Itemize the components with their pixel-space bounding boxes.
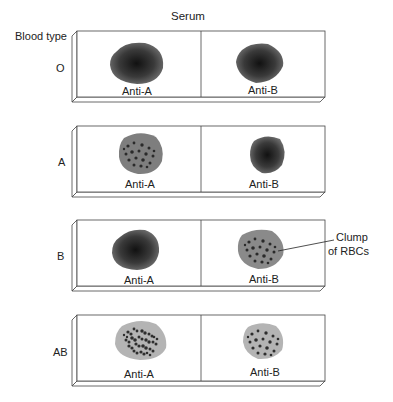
svg-text:Anti-B: Anti-B (249, 273, 279, 285)
label-anti-a: Anti-A (122, 85, 153, 97)
slide-o: Anti-A Anti-B (72, 31, 325, 102)
label-anti-b: Anti-B (248, 84, 278, 96)
agglutination-diagram: Anti-A Anti-B Anti-A Anti-B Anti-A Anti-… (0, 0, 393, 402)
annotation-clump: Clump (336, 231, 368, 243)
svg-text:Anti-B: Anti-B (249, 178, 279, 190)
slide-b: Anti-A Anti-B Clump of RBCs (72, 220, 369, 291)
annotation-rbcs: of RBCs (328, 245, 369, 257)
svg-text:Anti-A: Anti-A (125, 178, 156, 190)
svg-text:Anti-B: Anti-B (250, 366, 280, 378)
svg-text:Anti-A: Anti-A (124, 368, 155, 380)
slide-a: Anti-A Anti-B (72, 126, 325, 197)
svg-text:Anti-A: Anti-A (124, 274, 155, 286)
slide-ab: Anti-A Anti-B (72, 315, 325, 386)
